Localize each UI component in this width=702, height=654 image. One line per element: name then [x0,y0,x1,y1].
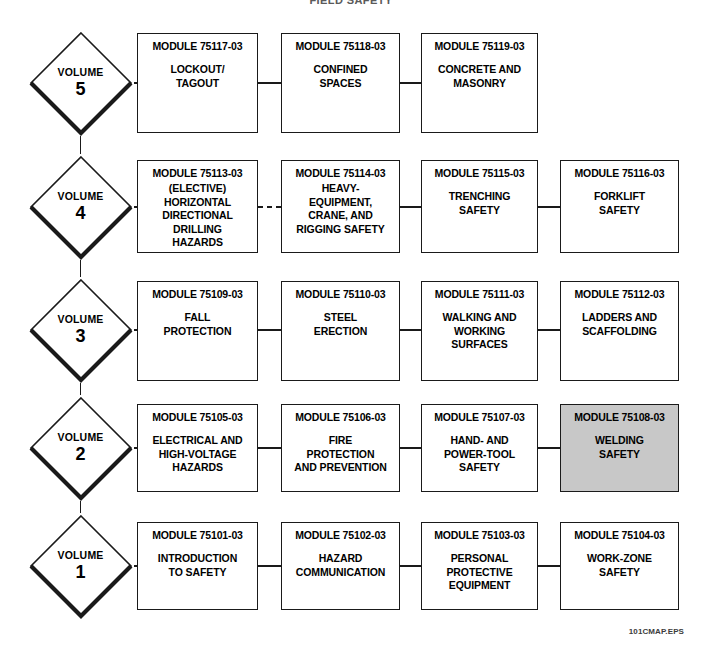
module-id: MODULE 75116-03 [564,167,675,179]
module-box-module-75114-03[interactable]: MODULE 75114-03HEAVY- EQUIPMENT, CRANE, … [281,160,400,253]
module-box-module-75116-03[interactable]: MODULE 75116-03FORKLIFT SAFETY [560,160,679,253]
module-box-module-75111-03[interactable]: MODULE 75111-03WALKING AND WORKING SURFA… [421,281,538,381]
module-id: MODULE 75110-03 [285,288,396,300]
diamond-shape [28,513,134,619]
module-box-module-75112-03[interactable]: MODULE 75112-03LADDERS AND SCAFFOLDING [560,281,679,381]
module-box-module-75119-03[interactable]: MODULE 75119-03CONCRETE AND MASONRY [421,33,538,133]
module-title: CONCRETE AND MASONRY [425,63,534,90]
module-title: HAZARD COMMUNICATION [285,552,396,579]
volume-node-4[interactable]: VOLUME4 [28,154,134,260]
module-id: MODULE 75112-03 [564,288,675,300]
module-title: FIRE PROTECTION AND PREVENTION [285,434,396,474]
module-title: STEEL ERECTION [285,311,396,338]
module-id: MODULE 75111-03 [425,288,534,300]
module-box-module-75107-03[interactable]: MODULE 75107-03HAND- AND POWER-TOOL SAFE… [421,404,538,492]
module-box-module-75103-03[interactable]: MODULE 75103-03PERSONAL PROTECTIVE EQUIP… [421,522,538,610]
module-box-module-75113-03[interactable]: MODULE 75113-03(ELECTIVE) HORIZONTAL DIR… [137,160,258,253]
diamond-shape [28,30,134,136]
module-box-module-75118-03[interactable]: MODULE 75118-03CONFINED SPACES [281,33,400,133]
volume-node-5[interactable]: VOLUME5 [28,30,134,136]
course-map-diagram: FIELD SAFETY VOLUME5MODULE 75117-03LOCKO… [0,0,702,654]
module-id: MODULE 75113-03 [141,167,254,179]
module-box-module-75104-03[interactable]: MODULE 75104-03WORK-ZONE SAFETY [560,522,679,610]
figure-caption: 101CMAP.EPS [629,627,684,636]
module-box-module-75108-03[interactable]: MODULE 75108-03WELDING SAFETY [560,404,679,492]
module-title: LADDERS AND SCAFFOLDING [564,311,675,338]
module-id: MODULE 75107-03 [425,411,534,423]
module-box-module-75110-03[interactable]: MODULE 75110-03STEEL ERECTION [281,281,400,381]
module-title: (ELECTIVE) HORIZONTAL DIRECTIONAL DRILLI… [141,182,254,249]
module-title: WORK-ZONE SAFETY [564,552,675,579]
diamond-shape [28,395,134,501]
volume-node-2[interactable]: VOLUME2 [28,395,134,501]
module-id: MODULE 75119-03 [425,40,534,52]
module-title: FALL PROTECTION [141,311,254,338]
diamond-shape [28,277,134,383]
module-id: MODULE 75105-03 [141,411,254,423]
diamond-shape [28,154,134,260]
module-id: MODULE 75117-03 [141,40,254,52]
module-box-module-75106-03[interactable]: MODULE 75106-03FIRE PROTECTION AND PREVE… [281,404,400,492]
module-box-module-75117-03[interactable]: MODULE 75117-03LOCKOUT/ TAGOUT [137,33,258,133]
module-title: CONFINED SPACES [285,63,396,90]
module-title: HAND- AND POWER-TOOL SAFETY [425,434,534,474]
module-id: MODULE 75118-03 [285,40,396,52]
module-title: WALKING AND WORKING SURFACES [425,311,534,351]
module-id: MODULE 75101-03 [141,529,254,541]
module-title: ELECTRICAL AND HIGH-VOLTAGE HAZARDS [141,434,254,474]
module-id: MODULE 75106-03 [285,411,396,423]
module-title: TRENCHING SAFETY [425,190,534,217]
module-title: HEAVY- EQUIPMENT, CRANE, AND RIGGING SAF… [285,182,396,236]
module-id: MODULE 75104-03 [564,529,675,541]
module-title: INTRODUCTION TO SAFETY [141,552,254,579]
module-title: LOCKOUT/ TAGOUT [141,63,254,90]
module-box-module-75102-03[interactable]: MODULE 75102-03HAZARD COMMUNICATION [281,522,400,610]
module-id: MODULE 75115-03 [425,167,534,179]
module-id: MODULE 75114-03 [285,167,396,179]
module-box-module-75105-03[interactable]: MODULE 75105-03ELECTRICAL AND HIGH-VOLTA… [137,404,258,492]
module-box-module-75115-03[interactable]: MODULE 75115-03TRENCHING SAFETY [421,160,538,253]
module-title: PERSONAL PROTECTIVE EQUIPMENT [425,552,534,592]
module-box-module-75101-03[interactable]: MODULE 75101-03INTRODUCTION TO SAFETY [137,522,258,610]
volume-node-1[interactable]: VOLUME1 [28,513,134,619]
module-title: FORKLIFT SAFETY [564,190,675,217]
module-id: MODULE 75102-03 [285,529,396,541]
volume-node-3[interactable]: VOLUME3 [28,277,134,383]
module-id: MODULE 75109-03 [141,288,254,300]
module-box-module-75109-03[interactable]: MODULE 75109-03FALL PROTECTION [137,281,258,381]
module-id: MODULE 75108-03 [564,411,675,423]
module-title: WELDING SAFETY [564,434,675,461]
module-id: MODULE 75103-03 [425,529,534,541]
